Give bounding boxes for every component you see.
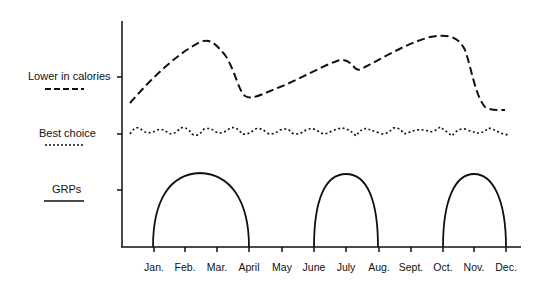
month-label: May — [272, 261, 292, 273]
series-best-choice — [130, 127, 508, 136]
legend-best-choice: Best choice — [39, 127, 96, 139]
grps-flight-2 — [314, 174, 378, 247]
series-lower-in-calories — [130, 36, 505, 110]
grps-flight-3 — [443, 174, 506, 247]
month-label: Dec. — [495, 261, 517, 273]
month-label: Aug. — [368, 261, 390, 273]
month-label: Sept. — [399, 261, 424, 273]
grps-flight-1 — [153, 173, 249, 247]
chart-canvas — [0, 0, 545, 285]
month-label: Mar. — [207, 261, 227, 273]
month-label: Jan. — [144, 261, 164, 273]
legend-grps: GRPs — [52, 183, 81, 195]
month-label: April — [238, 261, 259, 273]
month-label: Oct. — [433, 261, 452, 273]
series-grps — [153, 173, 506, 247]
month-label: Feb. — [174, 261, 195, 273]
month-label: Nov. — [464, 261, 485, 273]
month-label: July — [337, 261, 356, 273]
legend-lower-in-calories: Lower in calories — [28, 70, 111, 82]
month-label: June — [303, 261, 326, 273]
